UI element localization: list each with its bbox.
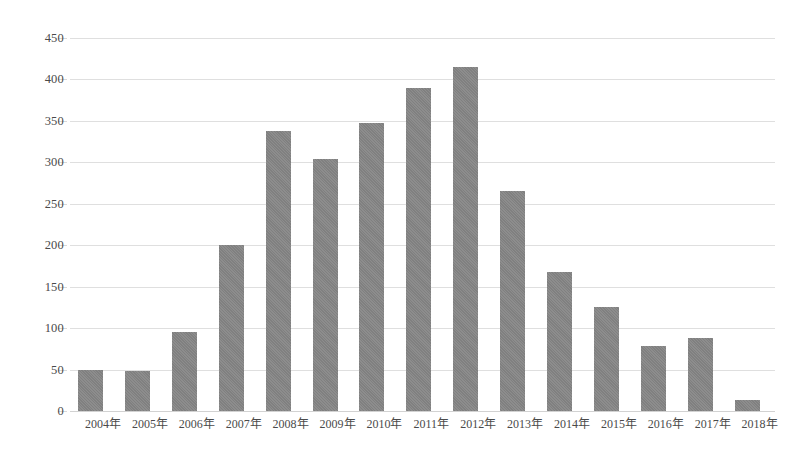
bar — [594, 307, 619, 411]
x-axis-tick-label: 2015年 — [593, 417, 645, 431]
bar — [125, 371, 150, 411]
y-axis-tick-label: 0 — [20, 405, 64, 418]
y-axis-tick-label: 250 — [20, 198, 64, 211]
bar — [641, 346, 666, 411]
gridline — [70, 411, 775, 412]
bar — [500, 191, 525, 411]
x-axis-tick-label: 2006年 — [171, 417, 223, 431]
x-axis-tick-label: 2008年 — [265, 417, 317, 431]
x-axis-tick-label: 2016年 — [640, 417, 692, 431]
bar — [547, 272, 572, 411]
x-axis-tick-label: 2004年 — [77, 417, 129, 431]
x-axis-labels: 2004年2005年2006年2007年2008年2009年2010年2011年… — [70, 417, 775, 443]
y-axis-labels: 050100150200250300350400450 — [12, 38, 64, 411]
bar — [78, 370, 103, 411]
x-axis-tick-label: 2012年 — [452, 417, 504, 431]
bar — [735, 400, 760, 411]
bar — [406, 88, 431, 411]
x-axis-tick-label: 2007年 — [218, 417, 270, 431]
x-axis-tick-label: 2005年 — [124, 417, 176, 431]
y-axis-tick-label: 350 — [20, 115, 64, 128]
y-axis-tick-label: 200 — [20, 239, 64, 252]
y-axis-tick-label: 450 — [20, 32, 64, 45]
y-axis-tick-label: 150 — [20, 281, 64, 294]
x-axis-tick-label: 2010年 — [358, 417, 410, 431]
bar — [688, 338, 713, 411]
y-axis-tick-label: 400 — [20, 73, 64, 86]
bar — [219, 245, 244, 411]
plot-area — [70, 38, 775, 411]
x-axis-tick-label: 2017年 — [687, 417, 739, 431]
gridline — [70, 79, 775, 80]
y-axis-tick-label: 100 — [20, 322, 64, 335]
x-axis-tick-label: 2013年 — [499, 417, 551, 431]
x-axis-tick-label: 2009年 — [312, 417, 364, 431]
x-axis-tick-label: 2014年 — [546, 417, 598, 431]
bar — [172, 332, 197, 411]
x-axis-tick-label: 2011年 — [405, 417, 457, 431]
y-axis-tick-label: 50 — [20, 364, 64, 377]
bar — [266, 131, 291, 411]
bar — [453, 67, 478, 411]
x-axis-tick-label: 2018年 — [734, 417, 786, 431]
y-axis-tick-label: 300 — [20, 156, 64, 169]
bar — [313, 159, 338, 411]
bar-chart: 050100150200250300350400450 2004年2005年20… — [0, 0, 795, 470]
bar — [359, 123, 384, 411]
gridline — [70, 38, 775, 39]
